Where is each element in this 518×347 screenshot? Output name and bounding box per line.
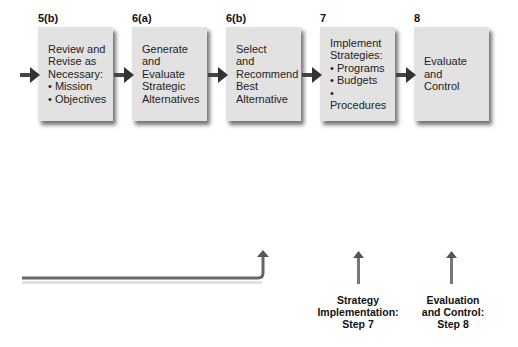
- up-arrow-icon: [352, 250, 366, 286]
- up-arrow-icon: [445, 250, 459, 286]
- caption-evaluation-control: Evaluation and Control: Step 8: [408, 294, 498, 330]
- caption-strategy-implementation: Strategy Implementation: Step 7: [313, 294, 403, 330]
